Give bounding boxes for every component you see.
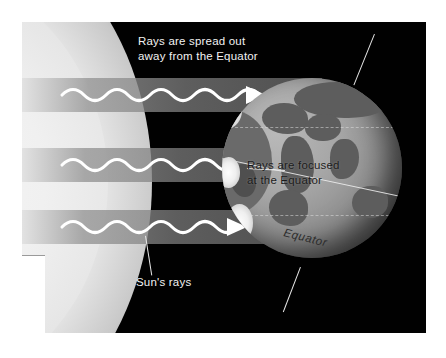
notch-top-rule bbox=[22, 255, 45, 256]
illustration-panel: Equator Rays are spread out away from th… bbox=[22, 22, 426, 333]
landmass-south bbox=[269, 190, 309, 226]
equator-label: Equator bbox=[283, 226, 329, 248]
landmass-southeast bbox=[352, 186, 388, 218]
leader-line-south bbox=[283, 267, 301, 312]
label-rays-spread-out: Rays are spread out away from the Equato… bbox=[138, 34, 258, 63]
ray-hotspot-bottom bbox=[226, 204, 253, 242]
sunlight-angle-diagram: Equator Rays are spread out away from th… bbox=[0, 0, 446, 358]
label-rays-focused: Rays are focused at the Equator bbox=[247, 158, 340, 187]
landmass-north bbox=[294, 82, 388, 118]
landmass-northwest bbox=[262, 103, 309, 134]
tropic-line-north bbox=[222, 127, 402, 128]
left-margin-notch bbox=[22, 255, 45, 333]
ray-wave-top bbox=[60, 80, 275, 110]
leader-line-top bbox=[353, 34, 375, 85]
label-suns-rays: Sun's rays bbox=[136, 275, 191, 290]
